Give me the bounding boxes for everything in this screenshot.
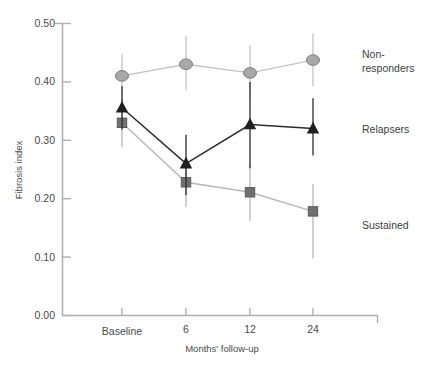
y-axis-tick-labels: 0.50 0.40 0.30 0.20 0.10 0.00 xyxy=(35,17,56,321)
legend-label-sustained: Sustained xyxy=(362,219,409,231)
chart-plot-area: 0.50 0.40 0.30 0.20 0.10 0.00 Baseline 6… xyxy=(0,0,431,367)
relapsers-line xyxy=(122,108,313,164)
legend-group: Non- responders Relapsers Sustained xyxy=(362,48,415,231)
x-axis-title: Months' follow-up xyxy=(185,343,259,354)
marker-relapsers-6 xyxy=(180,157,192,169)
marker-nonresponders-12 xyxy=(244,68,257,79)
legend-label-nonresponders-line1: Non- xyxy=(362,48,385,60)
x-tick-label-baseline: Baseline xyxy=(102,325,142,337)
series-sustained xyxy=(117,98,317,258)
y-tick-label-020: 0.20 xyxy=(35,192,56,204)
marker-nonresponders-baseline xyxy=(116,71,129,82)
x-axis-tick-labels: Baseline 6 12 24 xyxy=(102,323,319,337)
y-tick-label-030: 0.30 xyxy=(35,134,56,146)
legend-label-nonresponders-line2: responders xyxy=(362,62,415,74)
marker-sustained-24 xyxy=(308,207,317,216)
relapsers-error-bars xyxy=(122,82,313,195)
relapsers-markers xyxy=(116,101,319,168)
x-tick-label-12: 12 xyxy=(244,323,256,335)
y-tick-label-040: 0.40 xyxy=(35,75,56,87)
y-axis-title: Fibrosis index xyxy=(13,140,24,199)
series-nonresponders xyxy=(116,33,320,98)
marker-nonresponders-24 xyxy=(307,55,320,66)
y-tick-label-000: 0.00 xyxy=(35,309,56,321)
y-axis-ticks xyxy=(63,24,72,316)
y-tick-label-050: 0.50 xyxy=(35,17,56,29)
marker-relapsers-baseline xyxy=(116,101,128,113)
marker-nonresponders-6 xyxy=(180,59,193,70)
series-relapsers xyxy=(116,82,319,195)
marker-relapsers-12 xyxy=(244,118,256,130)
x-tick-label-6: 6 xyxy=(183,323,189,335)
nonresponders-line xyxy=(122,60,313,76)
y-tick-label-010: 0.10 xyxy=(35,251,56,263)
sustained-line xyxy=(122,123,313,212)
legend-label-relapsers: Relapsers xyxy=(362,123,409,135)
x-axis-ticks xyxy=(122,308,313,316)
sustained-markers xyxy=(117,118,317,216)
fibrosis-index-chart: 0.50 0.40 0.30 0.20 0.10 0.00 Baseline 6… xyxy=(0,0,431,367)
marker-sustained-12 xyxy=(245,188,254,197)
sustained-error-bars xyxy=(122,98,313,258)
x-tick-label-24: 24 xyxy=(307,323,319,335)
